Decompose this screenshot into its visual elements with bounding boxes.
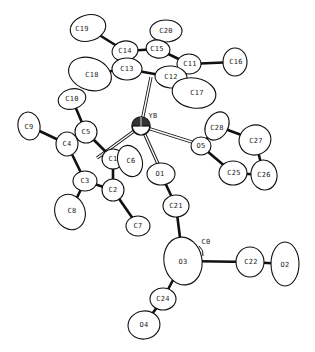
atom-c21: C21 [163, 195, 189, 217]
atom-label: O5 [196, 142, 205, 150]
atom-c4: C4 [56, 132, 78, 156]
atom-c3: C3 [73, 171, 97, 191]
atom-label: C2 [108, 186, 117, 194]
atom-label: C20 [159, 27, 173, 35]
atom-label: C28 [210, 124, 224, 132]
atom-c5: C5 [75, 121, 97, 143]
atom-c20: C20 [150, 20, 182, 42]
atom-o3: O3 [160, 234, 206, 288]
atom-o2: O2 [271, 242, 299, 286]
atom-c24: C24 [150, 288, 176, 310]
atom-c26: C26 [249, 158, 280, 192]
atom-c6: C6 [113, 142, 146, 180]
atom-o5: O5 [191, 137, 211, 155]
atom-label: C9 [24, 123, 33, 131]
atom-c22: C22 [236, 247, 264, 277]
atom-c25: C25 [219, 161, 247, 185]
ortep-diagram: C19C20C14C15C16C11C13C12C18C17C10C9C5C4C… [0, 0, 315, 352]
atom-c8: C8 [50, 190, 91, 234]
atom-label: O4 [139, 321, 148, 329]
atom-o4: O4 [126, 308, 162, 341]
atom-label: C24 [156, 295, 170, 303]
atom-c7: C7 [126, 216, 150, 236]
atom-label: C16 [229, 58, 243, 66]
atom-label: C15 [150, 45, 164, 53]
atom-label: C8 [67, 207, 76, 215]
atom-label: C13 [120, 65, 134, 73]
atom-label: C27 [249, 137, 263, 145]
atom-label: O3 [178, 258, 187, 266]
atom-c13: C13 [112, 58, 142, 80]
atom-label: C11 [183, 60, 197, 68]
atom-c2: C2 [102, 179, 124, 201]
atom-label: C10 [65, 95, 79, 103]
atom-label: C12 [164, 73, 178, 81]
atom-c16: C16 [223, 48, 247, 76]
atom-c27: C27 [235, 120, 275, 159]
atom-c9: C9 [16, 110, 43, 141]
atom-label: C4 [62, 140, 71, 148]
atom-label: C3 [80, 177, 89, 185]
atom-label: C22 [244, 258, 258, 266]
atom-label: C26 [257, 171, 271, 179]
atom-label: C14 [118, 47, 132, 55]
atom-label: C5 [81, 128, 90, 136]
yb-label: YB [148, 112, 157, 120]
atom-c19: C19 [67, 11, 109, 45]
atom-label: C25 [227, 169, 241, 177]
atom-label: O1 [155, 170, 164, 178]
atom-label: O2 [280, 261, 289, 269]
atom-label: C1 [108, 155, 117, 163]
atom-c10: C10 [56, 86, 88, 113]
c0-label: C0 [201, 238, 210, 246]
atom-label: C17 [190, 89, 204, 97]
atoms: C19C20C14C15C16C11C13C12C18C17C10C9C5C4C… [16, 11, 299, 342]
atom-label: C19 [75, 25, 89, 33]
atom-label: C6 [126, 157, 135, 165]
atom-label: C7 [133, 222, 142, 230]
atom-o1: O1 [147, 163, 175, 185]
atom-label: C21 [169, 202, 183, 210]
atom-label: C18 [85, 71, 99, 79]
molecule-svg: C19C20C14C15C16C11C13C12C18C17C10C9C5C4C… [0, 0, 315, 352]
